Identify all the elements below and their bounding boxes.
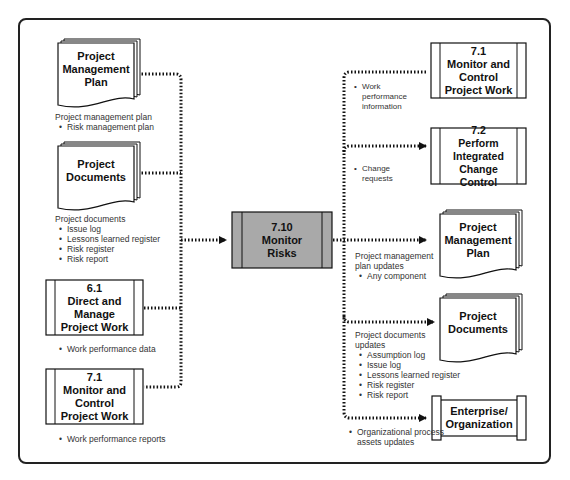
output-label-7-1: Work performance information xyxy=(350,82,407,112)
input-doc-project-documents-title: Project Documents xyxy=(58,146,134,196)
output-label-project-documents: Project documents updates Assumption log… xyxy=(355,330,460,400)
input-label-pmp: Project management plan Risk management … xyxy=(55,112,154,132)
input-label-7-1: Work performance reports xyxy=(55,434,166,444)
output-enterprise-title: Enterprise/ Organization xyxy=(441,400,517,436)
output-label-7-2: Change requests xyxy=(350,164,393,184)
input-label-6-1: Work performance data xyxy=(55,344,156,354)
input-label-project-documents: Project documents Issue log Lessons lear… xyxy=(55,214,160,264)
output-process-7-1-title: 7.1 Monitor and Control Project Work xyxy=(440,43,517,98)
input-process-7-1-title: 7.1 Monitor and Control Project Work xyxy=(55,369,134,424)
output-label-pmp: Project management plan updates Any comp… xyxy=(355,251,433,281)
center-process-title: 7.10 Monitor Risks xyxy=(242,212,322,268)
output-label-enterprise: Organizational process assets updates xyxy=(345,427,444,447)
input-process-6-1-title: 6.1 Direct and Manage Project Work xyxy=(55,280,134,335)
input-doc-pmp-title: Project Management Plan xyxy=(58,43,134,95)
output-process-7-2-title: 7.2 Perform Integrated Change Control xyxy=(440,128,517,184)
output-doc-pmp-title: Project Management Plan xyxy=(440,214,516,266)
